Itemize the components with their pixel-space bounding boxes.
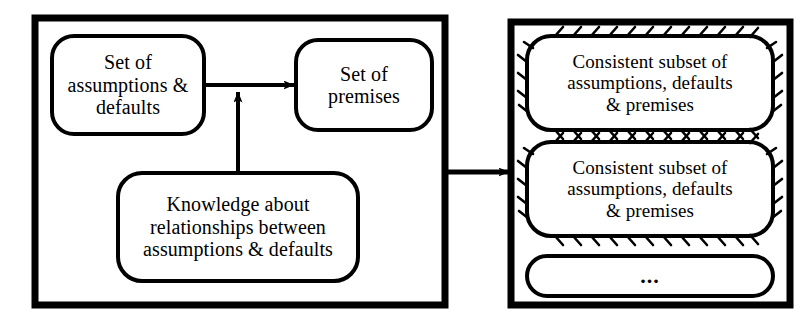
set-of-assumptions-and-defaults-box [52, 36, 204, 134]
left-panel [35, 18, 445, 305]
diagram-canvas: Set of assumptions & defaults Set of pre… [0, 0, 806, 326]
diagram-vector-layer [0, 0, 806, 326]
consistent-subset-box-2 [518, 133, 782, 245]
set-of-premises-box [296, 40, 432, 130]
consistent-subset-box-1-outline [527, 36, 773, 130]
ellipsis-box [527, 256, 773, 296]
consistent-subset-box-1 [518, 27, 782, 139]
right-panel [511, 22, 790, 305]
knowledge-about-relationships-box [118, 173, 358, 281]
consistent-subset-box-2-outline [527, 142, 773, 236]
